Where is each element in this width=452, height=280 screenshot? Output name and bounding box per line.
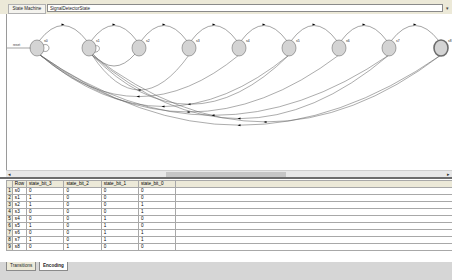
state-bit-3-cell[interactable]: 0 (27, 244, 64, 251)
state-bit-0-cell[interactable]: 0 (139, 216, 176, 223)
state-bit-2-cell[interactable]: 0 (64, 237, 101, 244)
state-bit-2-cell[interactable]: 1 (64, 244, 101, 251)
state-bit-1-cell[interactable]: 1 (101, 216, 138, 223)
state-bit-1-cell[interactable]: 0 (101, 244, 138, 251)
state-bit-3-cell[interactable]: 0 (27, 230, 64, 237)
state-bit-1-cell[interactable]: 1 (101, 223, 138, 230)
initial-label: reset (13, 43, 20, 47)
table-row[interactable]: 2s11000 (7, 195, 452, 202)
state-bit-0-cell[interactable]: 0 (139, 244, 176, 251)
state-bit-1-cell[interactable]: 0 (101, 195, 138, 202)
table-row[interactable]: 4s30001 (7, 209, 452, 216)
state-node-s0[interactable] (30, 40, 44, 56)
table-row[interactable]: 6s51010 (7, 223, 452, 230)
table-row[interactable]: 5s40010 (7, 216, 452, 223)
state-bit-2-cell[interactable]: 0 (64, 216, 101, 223)
state-bit-1-cell[interactable]: 0 (101, 209, 138, 216)
state-bit-2-cell[interactable]: 0 (64, 209, 101, 216)
empty-cell (176, 223, 452, 230)
transition-edge[interactable] (40, 55, 339, 112)
tab-encoding[interactable]: Encoding (39, 262, 68, 271)
transition-edge[interactable] (92, 55, 441, 122)
state-bit-3-cell[interactable]: 1 (27, 195, 64, 202)
state-bit-1-cell[interactable]: 1 (101, 230, 138, 237)
empty-cell (176, 244, 452, 251)
state-label: s6 (346, 39, 350, 43)
transition-edge[interactable] (40, 55, 389, 115)
table-row[interactable]: 3s21001 (7, 202, 452, 209)
arrowhead-icon (137, 96, 140, 98)
state-bit-1-cell[interactable]: 0 (101, 188, 138, 195)
empty-cell (176, 188, 452, 195)
state-bit-0-cell[interactable]: 1 (139, 230, 176, 237)
state-bit-3-cell[interactable]: 1 (27, 223, 64, 230)
state-node-s1[interactable] (82, 40, 96, 56)
state-label: s0 (44, 39, 48, 43)
state-diagram: resets0s1s2s3s4s5s6s7s8 (7, 14, 452, 170)
state-bit-2-cell[interactable]: 0 (64, 188, 101, 195)
column-header-state-bit-2[interactable]: state_bit_2 (64, 181, 101, 188)
tab-transitions[interactable]: Transitions (6, 262, 36, 271)
state-bit-0-cell[interactable]: 1 (139, 209, 176, 216)
state-name-cell[interactable]: s4 (12, 216, 26, 223)
state-bit-1-cell[interactable]: 0 (101, 202, 138, 209)
arrowhead-icon (238, 118, 241, 120)
empty-cell (176, 209, 452, 216)
state-bit-0-cell[interactable]: 0 (139, 195, 176, 202)
arrowhead-icon (162, 106, 165, 108)
chevron-down-icon[interactable]: ▾ (444, 4, 450, 12)
table-row[interactable]: 9s80100 (7, 244, 452, 251)
state-node-s6[interactable] (332, 40, 346, 56)
toolbar: State Machine SignalDetectorState ▾ (0, 0, 452, 14)
state-machine-name-field[interactable]: SignalDetectorState (47, 4, 443, 12)
state-bit-3-cell[interactable]: 0 (27, 188, 64, 195)
empty-cell (176, 237, 452, 244)
pane-splitter[interactable] (0, 177, 452, 179)
column-header-state-bit-0[interactable]: state_bit_0 (139, 181, 176, 188)
column-header-state-bit-1[interactable]: state_bit_1 (101, 181, 138, 188)
table-header-row: Row state_bit_3 state_bit_2 state_bit_1 … (7, 181, 452, 188)
state-bit-0-cell[interactable]: 1 (139, 202, 176, 209)
state-bit-1-cell[interactable]: 1 (101, 237, 138, 244)
column-header-state-bit-3[interactable]: state_bit_3 (27, 181, 64, 188)
state-name-cell[interactable]: s6 (12, 230, 26, 237)
state-node-s4[interactable] (232, 40, 246, 56)
state-name-cell[interactable]: s7 (12, 237, 26, 244)
state-bit-3-cell[interactable]: 1 (27, 202, 64, 209)
state-bit-3-cell[interactable]: 0 (27, 216, 64, 223)
state-node-s8[interactable] (434, 40, 448, 56)
state-bit-2-cell[interactable]: 0 (64, 230, 101, 237)
transition-edge[interactable] (92, 55, 289, 104)
state-node-s7[interactable] (382, 40, 396, 56)
table-row[interactable]: 7s60011 (7, 230, 452, 237)
state-bit-2-cell[interactable]: 0 (64, 202, 101, 209)
state-bit-2-cell[interactable]: 0 (64, 223, 101, 230)
state-bit-0-cell[interactable]: 0 (139, 188, 176, 195)
state-bit-0-cell[interactable]: 0 (139, 223, 176, 230)
state-name-cell[interactable]: s3 (12, 209, 26, 216)
transition-edge[interactable] (93, 54, 135, 66)
state-bit-3-cell[interactable]: 1 (27, 237, 64, 244)
state-name-cell[interactable]: s5 (12, 223, 26, 230)
state-name-cell[interactable]: s1 (12, 195, 26, 202)
state-node-s3[interactable] (182, 40, 196, 56)
state-bit-2-cell[interactable]: 0 (64, 195, 101, 202)
empty-cell (176, 195, 452, 202)
empty-cell (176, 216, 452, 223)
state-node-s5[interactable] (282, 40, 296, 56)
column-header-row[interactable]: Row (12, 181, 26, 188)
state-diagram-canvas[interactable]: resets0s1s2s3s4s5s6s7s8 (6, 14, 452, 170)
state-name-cell[interactable]: s0 (12, 188, 26, 195)
state-name-cell[interactable]: s8 (12, 244, 26, 251)
table-row[interactable]: 8s71011 (7, 237, 452, 244)
column-header-empty (176, 181, 452, 188)
state-bit-0-cell[interactable]: 1 (139, 237, 176, 244)
empty-cell (176, 202, 452, 209)
transition-edge[interactable] (92, 55, 189, 90)
state-bit-3-cell[interactable]: 0 (27, 209, 64, 216)
state-node-s2[interactable] (132, 40, 146, 56)
state-name-cell[interactable]: s2 (12, 202, 26, 209)
state-label: s4 (246, 39, 250, 43)
state-label: s8 (448, 39, 452, 43)
table-row[interactable]: 1s00000 (7, 188, 452, 195)
